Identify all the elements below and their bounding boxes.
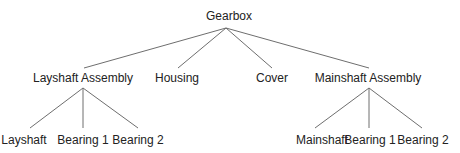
node-cover: Cover [256,71,288,85]
node-mainshaft-assembly: Mainshaft Assembly [315,71,422,85]
node-layshaft-assembly: Layshaft Assembly [33,71,133,85]
node-gearbox: Gearbox [206,9,252,23]
edge-layshaft-assembly-layshaft [30,88,83,128]
edge-gearbox-housing [178,28,226,68]
node-mainshaft-bearing-2: Bearing 2 [397,133,448,147]
node-mainshaft: Mainshaft [296,133,348,147]
edge-mainshaft-assembly-bearing-2 [369,88,422,128]
node-layshaft: Layshaft [1,133,46,147]
node-housing: Housing [155,71,199,85]
edge-gearbox-mainshaft-assembly [226,28,369,68]
node-layshaft-bearing-1: Bearing 1 [57,133,108,147]
node-layshaft-bearing-2: Bearing 2 [112,133,163,147]
node-mainshaft-bearing-1: Bearing 1 [344,133,395,147]
edge-layshaft-assembly-bearing-2 [83,88,138,128]
edge-mainshaft-assembly-mainshaft [315,88,369,128]
edge-gearbox-layshaft-assembly [84,28,226,68]
